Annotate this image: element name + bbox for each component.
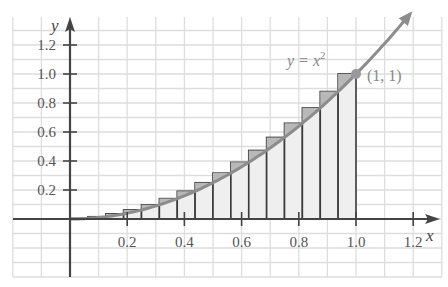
y-axis-label: y bbox=[49, 16, 59, 35]
x-tick-label: 0.2 bbox=[118, 234, 137, 250]
y-tick-label: 0.2 bbox=[37, 182, 56, 198]
curve-label-text: y = x bbox=[285, 52, 320, 70]
curve-label-exponent: 2 bbox=[320, 49, 326, 61]
y-tick-label: 0.4 bbox=[37, 153, 56, 169]
y-tick-label: 0.8 bbox=[37, 95, 56, 111]
x-tick-label: 1.0 bbox=[347, 234, 366, 250]
x-tick-label: 0.8 bbox=[289, 234, 308, 250]
point-label: (1, 1) bbox=[367, 67, 402, 85]
curve-label: y = x2 bbox=[285, 49, 326, 70]
y-tick-label: 1.2 bbox=[37, 37, 56, 53]
riemann-rectangle bbox=[320, 92, 338, 219]
x-tick-label: 0.4 bbox=[175, 234, 194, 250]
grid bbox=[13, 17, 442, 277]
point-marker bbox=[351, 69, 361, 79]
x-tick-label: 1.2 bbox=[404, 234, 423, 250]
y-tick-label: 0.6 bbox=[37, 124, 56, 140]
x-tick-label: 0.6 bbox=[232, 234, 251, 250]
y-tick-label: 1.0 bbox=[37, 66, 56, 82]
x-axis-label: x bbox=[425, 226, 434, 245]
riemann-sum-chart: 0.20.40.60.81.01.2 0.20.40.60.81.01.2 (1… bbox=[0, 0, 448, 287]
riemann-rectangle bbox=[338, 74, 356, 219]
riemann-rectangle bbox=[302, 108, 320, 219]
riemann-rectangle bbox=[285, 123, 303, 219]
